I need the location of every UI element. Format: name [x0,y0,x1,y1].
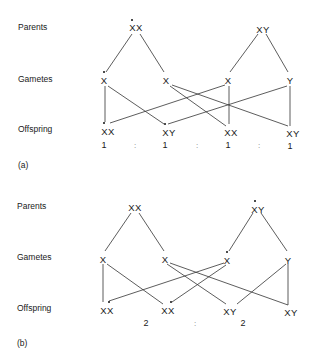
gamete-b-1: X [100,254,107,265]
ratio-a-sep-1: : [134,141,136,150]
ratio-a-sep-2: : [196,141,198,150]
ratio-b-sep: : [194,319,196,328]
offspring-b-1: XX [100,305,113,316]
ratio-a-4: 1 [287,141,292,151]
gamete-a-2: X [163,75,170,86]
row-label-gametes: Gametes [17,252,52,262]
gamete-a-4: Y [287,75,294,86]
ratio-a-2: 1 [162,140,167,150]
row-label-gametes: Gametes [18,74,53,84]
offspring-a-1: XX [101,126,114,137]
gamete-b-3: X [224,255,231,266]
row-label-parents: Parents [18,22,47,32]
panel-label-a: (a) [18,160,28,170]
row-label-offspring: Offspring [18,124,52,134]
gamete-b-4: Y [285,255,292,266]
offspring-b-2: XX [161,305,174,316]
offspring-a-2: XY [162,127,175,138]
row-label-offspring: Offspring [17,303,51,313]
panel-label-b: (b) [17,338,27,348]
gamete-a-1: X [101,75,108,86]
gamete-a-3: X [225,75,232,86]
row-label-parents: Parents [17,201,46,211]
ratio-a-3: 1 [225,140,230,150]
parent-father-b: XY [251,204,264,215]
parent-father-a: XY [256,24,269,35]
offspring-a-3: XX [224,127,237,138]
ratio-b-1: 2 [143,318,148,328]
offspring-b-3: XY [223,306,236,317]
gamete-b-2: X [162,254,169,265]
offspring-b-4: XY [284,307,297,318]
parent-mother-a: XX [129,22,142,33]
ratio-b-2: 2 [240,318,245,328]
ratio-a-1: 1 [101,140,106,150]
parent-mother-b: XX [128,202,141,213]
offspring-a-4: XY [286,128,299,139]
ratio-a-sep-3: : [258,141,260,150]
